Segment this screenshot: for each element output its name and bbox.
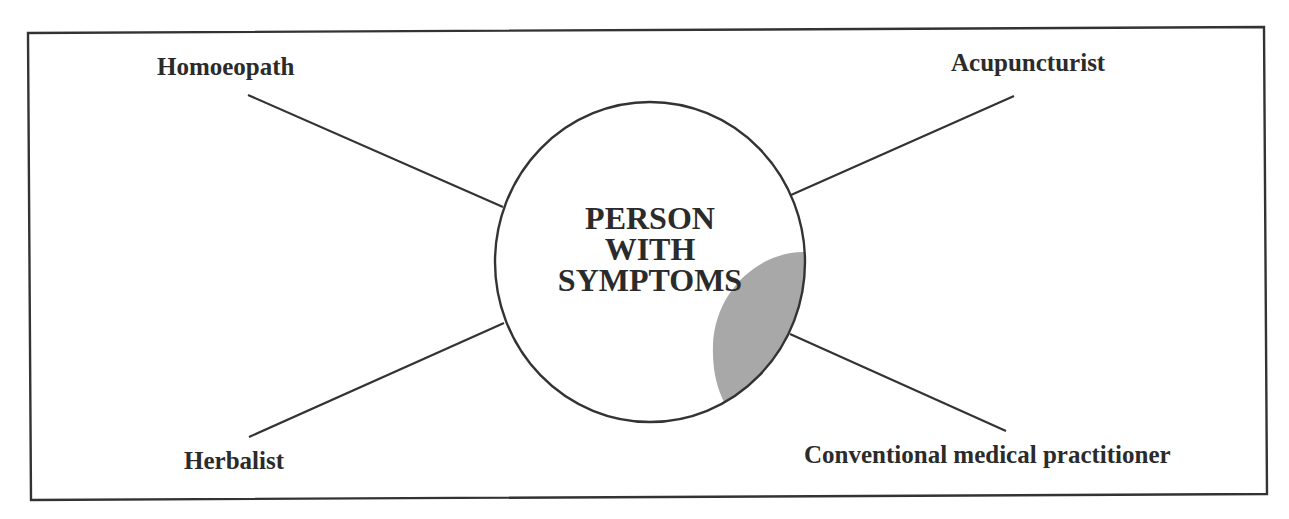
connector-acupuncturist	[791, 96, 1014, 195]
label-homoeopath: Homoeopath	[157, 53, 295, 80]
label-conventional-medical-practitioner: Conventional medical practitioner	[804, 441, 1171, 468]
connector-herbalist	[249, 323, 504, 437]
label-acupuncturist: Acupuncturist	[951, 49, 1106, 76]
center-line-3: SYMPTOMS	[558, 262, 742, 298]
connector-conventional	[790, 334, 1006, 431]
label-herbalist: Herbalist	[184, 447, 285, 474]
connector-homoeopath	[248, 95, 503, 207]
diagram-canvas: PERSON WITH SYMPTOMS Homoeopath Acupunct…	[0, 0, 1289, 519]
